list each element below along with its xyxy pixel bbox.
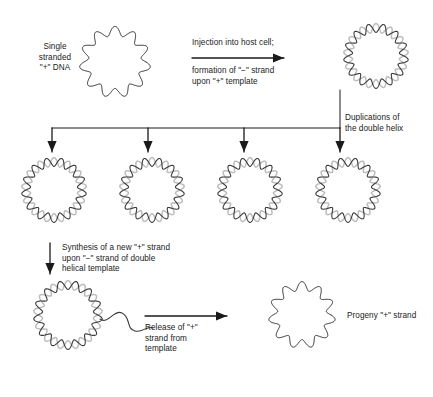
injection-arrow bbox=[192, 53, 284, 62]
arrow-head bbox=[45, 263, 54, 274]
arrow-head bbox=[143, 141, 152, 152]
dna-replication-diagram: Single stranded "+" DNA Injection into h… bbox=[0, 0, 433, 397]
double-helix-circle-3 bbox=[218, 158, 282, 223]
arrow-head bbox=[273, 53, 284, 62]
label-duplications: Duplications of the double helix bbox=[345, 113, 433, 134]
plus-strand bbox=[80, 26, 151, 96]
plus-strand bbox=[316, 159, 380, 223]
branch-arrow-2 bbox=[143, 128, 152, 152]
arrow-head bbox=[335, 141, 344, 152]
plus-strand bbox=[22, 159, 86, 223]
branch-arrow-3 bbox=[239, 128, 248, 152]
plus-strand bbox=[344, 25, 408, 89]
plus-strand bbox=[218, 159, 282, 223]
label-injection: Injection into host cell; bbox=[192, 38, 312, 49]
plus-strand bbox=[34, 282, 102, 350]
arrow-head bbox=[47, 141, 56, 152]
label-formation: formation of "−" strand upon "+" templat… bbox=[192, 66, 320, 87]
label-release: Release of "+" strand from template bbox=[145, 323, 225, 355]
minus-strand bbox=[316, 158, 380, 222]
minus-strand bbox=[22, 158, 86, 222]
label-progeny: Progeny "+" strand bbox=[347, 311, 433, 322]
plus-strand bbox=[269, 282, 335, 348]
arrow-head bbox=[216, 311, 227, 320]
release-arrow bbox=[145, 311, 227, 320]
double-helix-circle-initial bbox=[344, 24, 408, 89]
double-helix-circle-with-peeling-strand bbox=[34, 281, 153, 350]
arrow-head bbox=[239, 141, 248, 152]
branch-arrow-1 bbox=[47, 128, 56, 152]
synthesis-arrow bbox=[45, 243, 54, 274]
double-helix-circle-2 bbox=[120, 158, 184, 223]
parental-single-strand-circle bbox=[80, 26, 151, 96]
branch-arrow-4 bbox=[335, 128, 344, 152]
minus-strand bbox=[34, 281, 102, 349]
progeny-single-strand-circle bbox=[269, 282, 335, 348]
plus-strand bbox=[120, 159, 184, 223]
label-single-stranded-dna: Single stranded "+" DNA bbox=[24, 42, 86, 74]
minus-strand bbox=[218, 158, 282, 222]
minus-strand bbox=[344, 24, 408, 88]
label-synthesis: Synthesis of a new "+" strand upon "−" s… bbox=[62, 243, 222, 275]
double-helix-circle-4 bbox=[316, 158, 380, 223]
minus-strand bbox=[120, 158, 184, 222]
double-helix-circle-1 bbox=[22, 158, 86, 223]
